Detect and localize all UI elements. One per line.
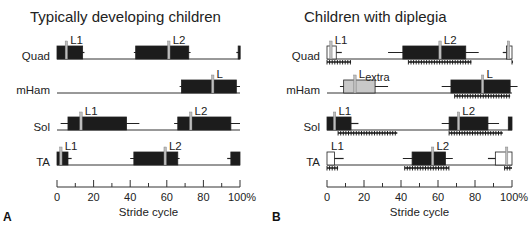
burst: L — [180, 68, 240, 93]
panel-letter: A — [3, 210, 12, 224]
muscle-label: Sol — [303, 121, 320, 133]
peak-marker — [431, 147, 433, 165]
peak-marker — [168, 41, 170, 59]
peak-marker — [439, 41, 441, 59]
burst: L2 — [403, 140, 453, 165]
peak-marker — [507, 41, 509, 59]
burst-label: L2 — [173, 34, 186, 46]
burst: L — [442, 68, 518, 93]
axis-tick-label: 80 — [469, 191, 481, 203]
axis-tick-label: 80 — [197, 191, 209, 203]
burst-bar — [403, 46, 466, 59]
burst-label: L1 — [85, 105, 98, 117]
muscle-label: TA — [36, 156, 50, 168]
burst-bar — [134, 152, 178, 165]
peak-marker — [505, 147, 507, 165]
burst-label: L — [217, 68, 224, 80]
peak-marker — [354, 75, 356, 93]
burst: L2 — [134, 34, 191, 59]
muscle-row-quad: QuadL1L2 — [22, 34, 240, 62]
burst-bar — [327, 117, 351, 130]
burst-bar — [181, 80, 236, 93]
burst — [227, 152, 240, 165]
significance-markers — [455, 94, 511, 99]
burst-label: L2 — [462, 105, 475, 117]
peak-marker — [65, 41, 67, 59]
burst-bar — [449, 117, 488, 130]
burst: L2 — [174, 105, 240, 130]
burst-label: L1 — [70, 34, 83, 46]
muscle-row-mham: mHamLextraL — [286, 68, 517, 99]
muscle-label: Sol — [33, 121, 50, 133]
muscle-label: Quad — [22, 50, 50, 62]
burst: Lextra — [340, 68, 391, 93]
burst-bar — [508, 117, 512, 130]
burst-bar — [238, 46, 240, 59]
burst-label: L1 — [338, 105, 351, 117]
peak-marker — [457, 112, 459, 130]
burst-bar — [57, 152, 68, 165]
axis-tick-label: 40 — [124, 191, 136, 203]
burst-label: L — [486, 68, 493, 80]
significance-markers — [505, 166, 512, 171]
x-axis: 020406080100%Stride cycle — [54, 180, 256, 218]
significance-markers — [512, 60, 513, 65]
muscle-row-ta: TAL1L2 — [306, 140, 512, 171]
muscle-label: TA — [306, 156, 320, 168]
muscle-label: mHam — [286, 84, 320, 96]
significance-markers — [449, 131, 503, 136]
burst — [488, 147, 512, 165]
burst-label-sub: extra — [365, 71, 390, 83]
axis-title: Stride cycle — [390, 206, 449, 218]
burst-label: L2 — [444, 34, 457, 46]
muscle-row-quad: QuadL1L2 — [292, 34, 513, 65]
burst: L1 — [57, 140, 77, 165]
significance-markers — [338, 131, 397, 136]
panel-title: Children with diplegia — [304, 8, 447, 25]
burst — [503, 41, 512, 59]
emg-timing-figure: Typically developing childrenQuadL1L2mHa… — [0, 0, 531, 239]
peak-marker — [333, 112, 335, 130]
axis-tick-label: 40 — [395, 191, 407, 203]
burst-bar — [327, 152, 334, 165]
muscle-row-sol: SolL1L2 — [33, 105, 240, 133]
significance-markers — [405, 166, 449, 171]
burst-label: L1 — [331, 140, 344, 152]
panel-a: Typically developing childrenQuadL1L2mHa… — [3, 8, 256, 224]
peak-marker — [60, 147, 62, 165]
burst — [508, 117, 512, 130]
axis-tick-label: 100% — [228, 191, 256, 203]
burst: L1 — [57, 34, 84, 59]
burst-bar — [57, 46, 83, 59]
panel-title: Typically developing children — [30, 8, 221, 25]
peak-marker — [80, 112, 82, 130]
muscle-row-mham: mHamL — [16, 68, 240, 96]
axis-tick-label: 60 — [161, 191, 173, 203]
muscle-label: mHam — [16, 84, 50, 96]
burst — [236, 46, 240, 59]
muscle-row-ta: TAL1L2 — [36, 140, 240, 168]
axis-title: Stride cycle — [119, 206, 178, 218]
burst-label: L2 — [436, 140, 449, 152]
axis-tick-label: 60 — [432, 191, 444, 203]
significance-markers — [408, 60, 471, 65]
axis-tick-label: 20 — [87, 191, 99, 203]
panel-b: Children with diplegiaQuadL1L2mHamLextra… — [272, 8, 528, 224]
burst: L1 — [327, 140, 344, 165]
burst-bar — [495, 152, 512, 165]
peak-marker — [190, 112, 192, 130]
peak-marker — [212, 75, 214, 93]
axis-tick-label: 100% — [500, 191, 528, 203]
significance-markers — [327, 60, 351, 65]
x-axis: 020406080100%Stride cycle — [324, 180, 528, 218]
burst: L2 — [388, 34, 479, 59]
burst-label: L1 — [335, 34, 348, 46]
axis-tick-label: 0 — [324, 191, 330, 203]
axis-tick-label: 20 — [358, 191, 370, 203]
burst-bar — [451, 80, 510, 93]
burst-bar — [178, 117, 231, 130]
peak-marker — [164, 147, 166, 165]
burst-label: L1 — [65, 140, 78, 152]
burst-bar — [136, 46, 189, 59]
muscle-row-sol: SolL1L2 — [303, 105, 512, 136]
